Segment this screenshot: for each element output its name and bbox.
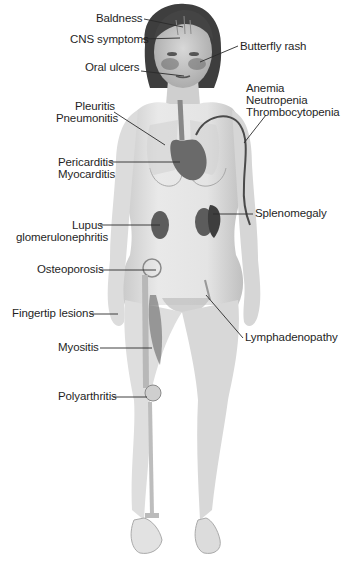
label-baldness: Baldness [96, 12, 143, 25]
label-oral-ulcers: Oral ulcers [85, 61, 140, 74]
left-foot [195, 518, 220, 553]
label-myositis: Myositis [58, 341, 99, 354]
label-osteoporosis: Osteoporosis [37, 263, 104, 276]
label-pneumonitis: Pneumonitis [56, 112, 118, 125]
label-cns-symptoms: CNS symptoms [70, 33, 149, 46]
label-thrombocytopenia: Thrombocytopenia [246, 106, 340, 119]
right-kidney [151, 211, 169, 239]
label-polyarthritis: Polyarthritis [58, 390, 117, 403]
label-fingertip-lesions: Fingertip lesions [12, 307, 94, 320]
knee [145, 385, 161, 401]
left-leg [182, 300, 239, 520]
right-foot [131, 518, 162, 553]
label-myocarditis: Myocarditis [58, 168, 115, 181]
label-splenomegaly: Splenomegaly [255, 207, 327, 220]
label-butterfly-rash: Butterfly rash [240, 40, 306, 53]
body-figure-svg [0, 0, 348, 567]
label-lymphadenopathy: Lymphadenopathy [245, 331, 338, 344]
body-illustration [0, 0, 348, 567]
label-glomerulonephritis: glomerulonephritis [16, 231, 108, 244]
